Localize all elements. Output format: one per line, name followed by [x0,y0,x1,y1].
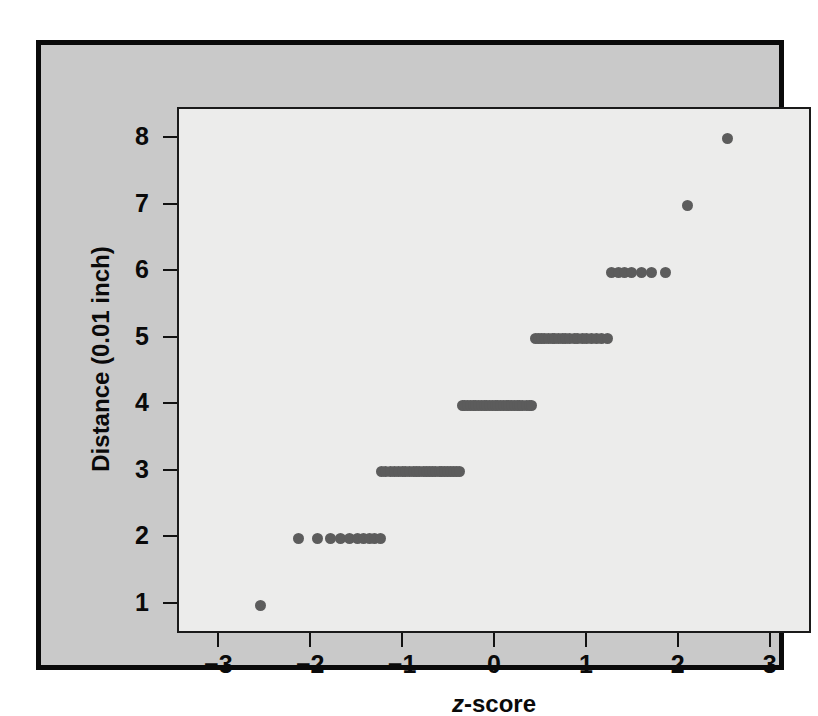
figure-frame: Distance (0.01 inch) 12345678 −3−2−10123… [36,40,784,670]
data-point [722,133,733,144]
data-point [454,466,465,477]
y-tick-label: 3 [89,457,149,482]
y-tick-mark [163,402,177,404]
x-tick-label: 2 [648,652,708,677]
x-tick-label: 1 [556,652,616,677]
plot-area [177,107,811,633]
y-tick-mark [163,469,177,471]
y-tick-label: 4 [89,390,149,415]
y-tick-mark [163,602,177,604]
y-tick-mark [163,136,177,138]
x-tick-label: 0 [464,652,524,677]
x-tick-mark [585,633,587,647]
x-tick-mark [769,633,771,647]
x-axis-title: z-score [177,690,811,716]
x-axis-title-italic: z [452,690,464,716]
x-tick-label: −2 [280,652,340,677]
x-axis-title-rest: -score [464,690,536,716]
y-tick-mark [163,535,177,537]
data-point [312,533,323,544]
data-point [682,200,693,211]
x-tick-mark [677,633,679,647]
data-point [375,533,386,544]
data-point [602,333,613,344]
x-tick-mark [493,633,495,647]
y-tick-mark [163,203,177,205]
x-tick-label: 3 [740,652,800,677]
y-tick-mark [163,336,177,338]
y-tick-label: 7 [89,191,149,216]
x-tick-label: −3 [188,652,248,677]
y-tick-label: 6 [89,257,149,282]
y-tick-label: 8 [89,124,149,149]
data-point [646,267,657,278]
scatter-points-layer [179,109,809,631]
x-tick-mark [309,633,311,647]
data-point [293,533,304,544]
data-point [526,400,537,411]
x-tick-label: −1 [372,652,432,677]
y-tick-label: 1 [89,590,149,615]
x-tick-mark [217,633,219,647]
data-point [255,600,266,611]
x-tick-mark [401,633,403,647]
y-tick-label: 2 [89,523,149,548]
y-tick-label: 5 [89,324,149,349]
data-point [660,267,671,278]
y-tick-mark [163,269,177,271]
